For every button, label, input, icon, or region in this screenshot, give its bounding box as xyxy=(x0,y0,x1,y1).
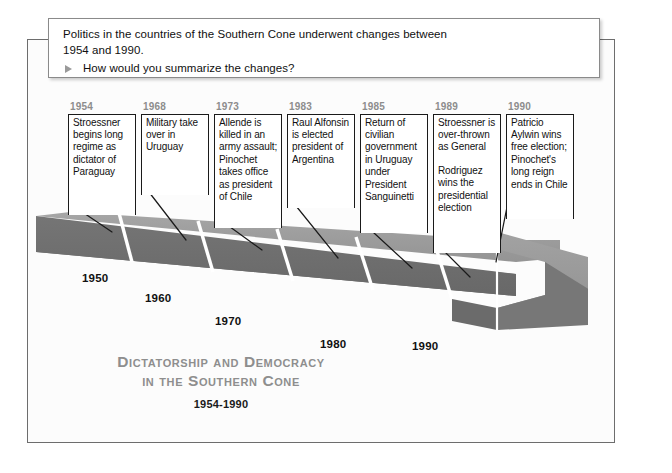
title-date-range: 1954-1990 xyxy=(56,398,386,410)
page-title: Dictatorship and Democracy in the Southe… xyxy=(56,352,386,390)
event-paragraph: Patricio Aylwin wins free election; Pino… xyxy=(511,117,570,191)
decade-label: 1980 xyxy=(320,338,346,350)
title-line-2: in the Southern Cone xyxy=(142,372,300,389)
event-year-label: 1968 xyxy=(141,101,209,112)
event-paragraph: Military take over in Uruguay xyxy=(146,117,205,154)
event-callout: 1954Stroessner begins long regime as dic… xyxy=(68,101,136,215)
event-callout: 1989Stroessner is over-thrown as General… xyxy=(433,101,501,253)
event-year-label: 1989 xyxy=(433,101,501,112)
chart-title-block: Dictatorship and Democracy in the Southe… xyxy=(56,352,386,410)
prompt-question: How would you summarize the changes? xyxy=(83,61,294,77)
event-paragraph: Return of civilian government in Uruguay… xyxy=(365,117,424,204)
event-year-label: 1973 xyxy=(214,101,282,112)
event-callout: 1985Return of civilian government in Uru… xyxy=(360,101,428,233)
event-year-label: 1954 xyxy=(68,101,136,112)
road-slabs xyxy=(36,212,588,330)
triangle-right-icon xyxy=(65,65,72,73)
decade-label: 1960 xyxy=(145,292,171,304)
event-paragraph: Rodriguez wins the presidential election xyxy=(438,165,497,215)
event-paragraph: Stroessner is over-thrown as General xyxy=(438,117,497,154)
prompt-line-1: Politics in the countries of the Souther… xyxy=(63,27,587,43)
title-line-1: Dictatorship and Democracy xyxy=(117,353,324,370)
event-year-label: 1990 xyxy=(506,101,574,112)
prompt-callout: Politics in the countries of the Souther… xyxy=(48,18,600,78)
decade-label: 1970 xyxy=(215,315,241,327)
event-text-box: Return of civilian government in Uruguay… xyxy=(360,114,428,233)
event-paragraph: Allende is killed in an army assault; Pi… xyxy=(219,117,278,204)
event-text-box: Patricio Aylwin wins free election; Pino… xyxy=(506,114,574,219)
event-year-label: 1983 xyxy=(287,101,355,112)
road-arrow-joint xyxy=(452,299,497,330)
event-callout: 1990Patricio Aylwin wins free election; … xyxy=(506,101,574,219)
event-callout: 1973Allende is killed in an army assault… xyxy=(214,101,282,228)
decade-label: 1950 xyxy=(82,272,108,284)
event-callout: 1983Raul Alfonsin is elected president o… xyxy=(287,101,355,208)
event-paragraph: Stroessner begins long regime as dictato… xyxy=(73,117,132,179)
prompt-question-row: How would you summarize the changes? xyxy=(63,61,587,77)
event-text-box: Stroessner begins long regime as dictato… xyxy=(68,114,136,215)
event-text-box: Military take over in Uruguay xyxy=(141,114,209,195)
event-paragraph: Raul Alfonsin is elected president of Ar… xyxy=(292,117,351,167)
prompt-line-2: 1954 and 1990. xyxy=(63,43,587,59)
event-callout: 1968Military take over in Uruguay xyxy=(141,101,209,195)
event-text-box: Raul Alfonsin is elected president of Ar… xyxy=(287,114,355,208)
event-text-box: Allende is killed in an army assault; Pi… xyxy=(214,114,282,228)
event-text-box: Stroessner is over-thrown as GeneralRodr… xyxy=(433,114,501,253)
decade-label: 1990 xyxy=(412,340,438,352)
event-year-label: 1985 xyxy=(360,101,428,112)
